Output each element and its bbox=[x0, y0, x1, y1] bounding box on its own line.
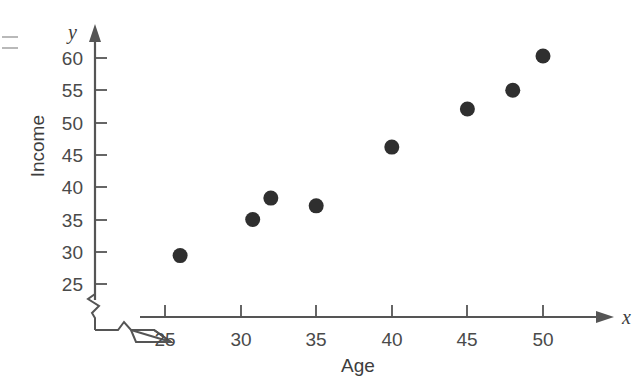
x-tick-label: 25 bbox=[154, 330, 175, 349]
data-point bbox=[505, 83, 520, 98]
scatter-plot-figure: 60 55 50 45 40 35 30 25 25 30 35 40 45 5… bbox=[0, 0, 644, 392]
y-tick-label: 25 bbox=[28, 275, 83, 294]
y-axis-title: Income bbox=[28, 115, 47, 177]
x-axis-variable-symbol: x bbox=[622, 307, 631, 327]
data-point bbox=[309, 198, 324, 213]
x-axis bbox=[140, 305, 614, 323]
data-point bbox=[173, 248, 188, 263]
x-tick-label: 45 bbox=[456, 330, 477, 349]
data-point bbox=[245, 212, 260, 227]
x-tick-label: 30 bbox=[230, 330, 251, 349]
data-point-series bbox=[173, 49, 551, 264]
x-tick-label: 50 bbox=[532, 330, 553, 349]
data-point bbox=[460, 102, 475, 117]
y-tick-label: 60 bbox=[28, 49, 83, 68]
x-axis-title: Age bbox=[341, 356, 375, 375]
x-tick-label: 40 bbox=[381, 330, 402, 349]
y-tick-label: 55 bbox=[28, 81, 83, 100]
y-axis-variable-symbol: y bbox=[68, 22, 77, 42]
y-axis bbox=[89, 24, 107, 300]
y-tick-label: 40 bbox=[28, 178, 83, 197]
y-axis-break-icon bbox=[88, 290, 99, 330]
y-tick-label: 30 bbox=[28, 243, 83, 262]
y-tick-label: 35 bbox=[28, 211, 83, 230]
data-point bbox=[384, 140, 399, 155]
x-tick-label: 35 bbox=[305, 330, 326, 349]
data-point bbox=[263, 191, 278, 206]
data-point bbox=[536, 49, 551, 64]
